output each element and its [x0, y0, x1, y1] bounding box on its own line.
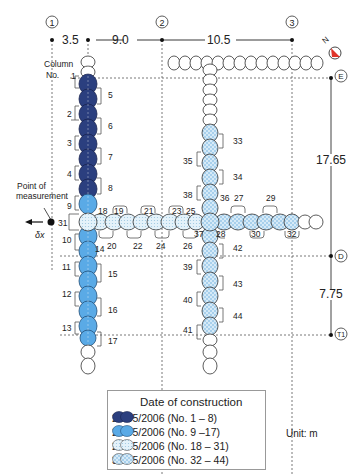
- legend-item-27-05: 27/05/2006 (No. 9 –17): [112, 425, 220, 438]
- col-label-17: 17: [108, 336, 118, 346]
- axis-label-3: 3: [289, 18, 294, 28]
- col-label-27: 27: [234, 193, 244, 203]
- construction-plan-diagram: 3.5 9.0 10.5 17.65 7.75 1 2 3 E D T1 N: [0, 0, 364, 474]
- col-label-4: 4: [67, 169, 72, 179]
- col-label-8: 8: [108, 183, 113, 193]
- col-label-43: 43: [233, 279, 243, 289]
- dim-7-75: 7.75: [319, 287, 343, 301]
- point-of-measurement-marker: [25, 208, 55, 226]
- col-label-37: 37: [194, 229, 204, 239]
- col-label-15: 15: [108, 269, 118, 279]
- axis-label-1: 1: [49, 18, 54, 28]
- axis-label-D: D: [338, 252, 344, 261]
- point-of-measurement-label-line2: measurement: [16, 191, 69, 201]
- col-label-29: 29: [266, 193, 276, 203]
- legend-title: Date of construction: [140, 396, 242, 408]
- legend-swatch-checkered: [112, 453, 134, 465]
- horizontal-wall-piles-29-05: [91, 214, 204, 230]
- col-label-20: 20: [107, 241, 117, 251]
- north-arrow-icon: [329, 47, 341, 59]
- dim-3-5: 3.5: [62, 33, 79, 47]
- arrow-left-icon: [25, 219, 32, 225]
- col-label-40: 40: [183, 295, 193, 305]
- legend-item-26-05: 26/05/2006 (No. 1 – 8): [112, 411, 217, 424]
- col-label-32: 32: [287, 229, 297, 239]
- legend: Date of construction 26/05/2006 (No. 1 –…: [107, 390, 266, 470]
- dim-10-5: 10.5: [207, 33, 231, 47]
- col-label-14: 14: [95, 244, 105, 254]
- column-no-label-line2: No.: [46, 70, 59, 80]
- col-label-12: 12: [62, 289, 72, 299]
- legend-swatch-light-blue: [112, 425, 134, 437]
- col-label-21: 21: [144, 206, 154, 216]
- point-of-measurement-label-line1: Point of: [17, 181, 46, 191]
- col-label-5: 5: [108, 90, 113, 100]
- top-unbuilt-piles: [168, 56, 323, 70]
- col-label-28: 28: [216, 229, 226, 239]
- col-label-36: 36: [220, 193, 230, 203]
- col-label-38: 38: [183, 190, 193, 200]
- col-label-23: 23: [172, 206, 182, 216]
- col-label-10: 10: [62, 235, 72, 245]
- column-no-label-line1: Column: [44, 59, 74, 69]
- wall-2-unbuilt-piles-top: [203, 64, 217, 126]
- col-label-2: 2: [67, 109, 72, 119]
- delta-x-label: δx: [35, 230, 45, 240]
- dim-9-0: 9.0: [112, 33, 129, 47]
- col-label-33: 33: [233, 136, 243, 146]
- horizontal-wall-piles-east: [215, 214, 300, 230]
- unit-label: Unit: m: [286, 428, 318, 439]
- col-label-44: 44: [233, 311, 243, 321]
- col-label-13: 13: [62, 323, 72, 333]
- col-label-19: 19: [114, 206, 124, 216]
- col-label-11: 11: [62, 262, 71, 272]
- col-label-3: 3: [67, 138, 72, 148]
- north-label: N: [321, 35, 331, 46]
- col-label-26: 26: [183, 241, 193, 251]
- wall-2-unbuilt-piles-bottom: [203, 334, 217, 374]
- col-label-22: 22: [133, 241, 143, 251]
- legend-swatch-dark-blue: [112, 411, 134, 423]
- axis-label-2: 2: [159, 18, 164, 28]
- legend-item-30-05: 30/05/2006 (No. 32 – 44): [112, 453, 229, 466]
- dim-17-65: 17.65: [316, 153, 346, 167]
- col-label-34: 34: [233, 172, 243, 182]
- col-label-18: 18: [98, 206, 108, 216]
- col-label-7: 7: [108, 152, 113, 162]
- col-label-31: 31: [58, 218, 68, 228]
- col-label-35: 35: [183, 156, 193, 166]
- col-label-16: 16: [108, 305, 118, 315]
- axis-label-E: E: [338, 72, 343, 81]
- col-label-42: 42: [233, 243, 243, 253]
- col-label-9: 9: [67, 201, 72, 211]
- legend-item-29-05: 29/05/2006 (No. 18 – 31): [112, 439, 229, 452]
- axis-label-T1: T1: [337, 331, 345, 338]
- col-label-25: 25: [186, 206, 196, 216]
- col-label-30: 30: [251, 229, 261, 239]
- col-label-24: 24: [156, 241, 166, 251]
- legend-swatch-dotted: [112, 439, 134, 451]
- col-label-41: 41: [183, 325, 193, 335]
- col-label-6: 6: [108, 121, 113, 131]
- col-label-1: 1: [71, 71, 76, 81]
- col-label-39: 39: [183, 262, 193, 272]
